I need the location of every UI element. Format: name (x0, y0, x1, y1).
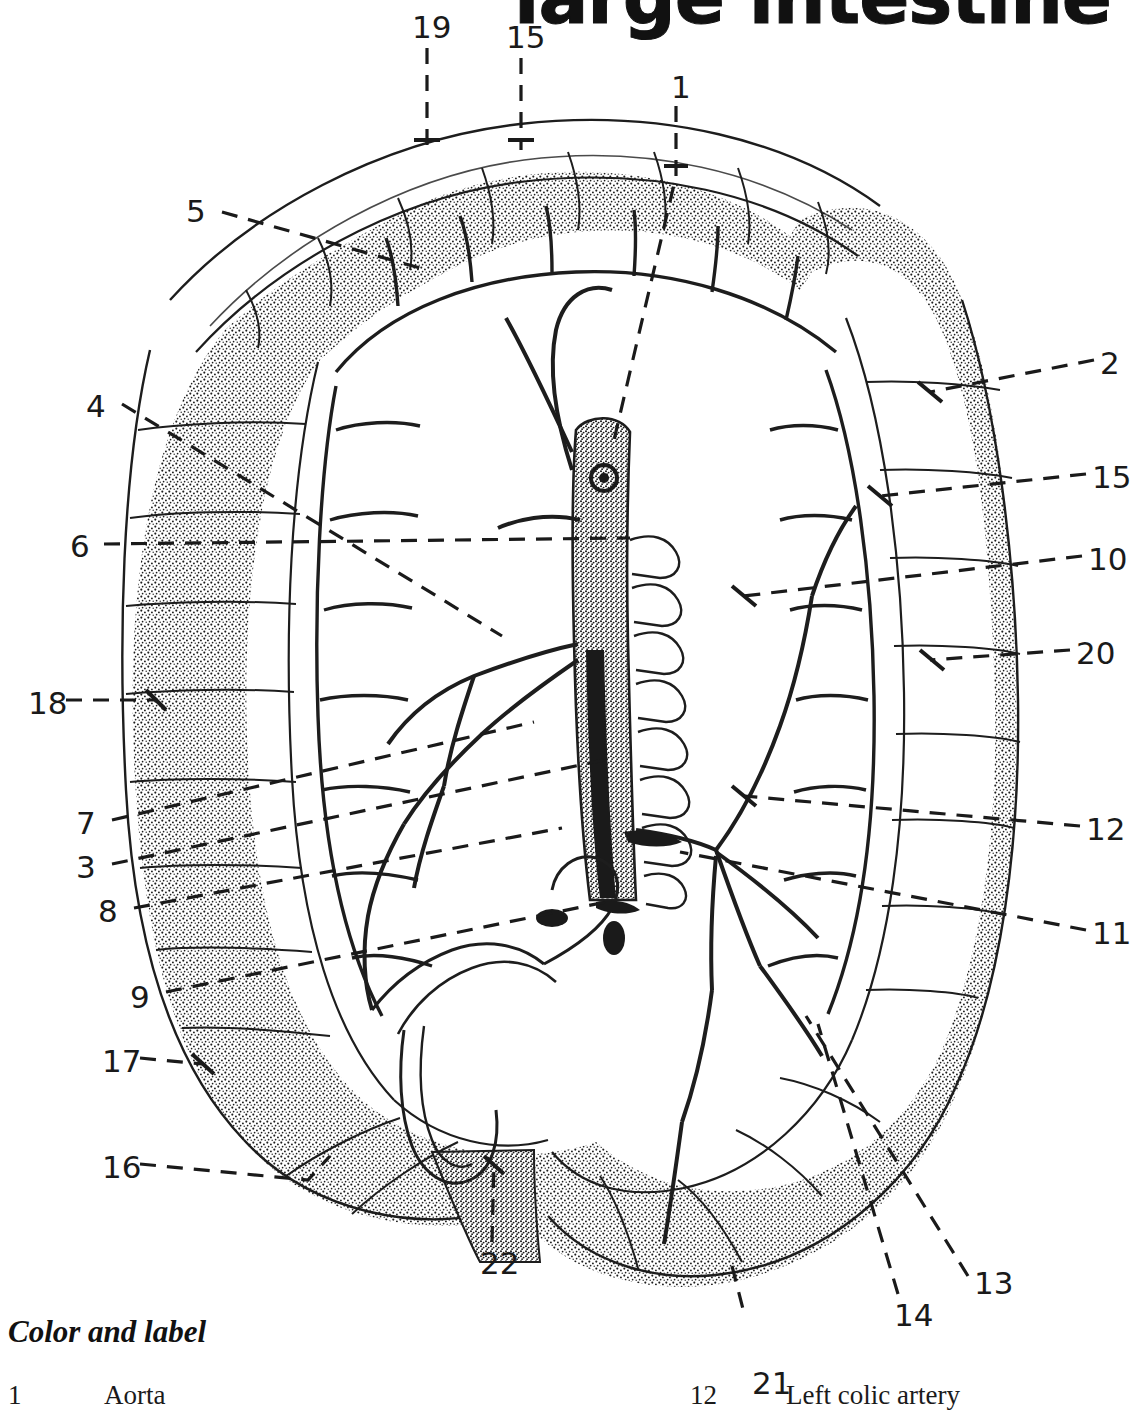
leader-label-4: 4 (86, 391, 106, 422)
legend-item-number: 1 (8, 1380, 104, 1411)
leader-label-2: 2 (1100, 348, 1120, 379)
leader-label-7: 7 (76, 808, 96, 839)
aorta (573, 418, 636, 900)
leader-label-19: 19 (412, 12, 451, 43)
legend-heading: Color and label (8, 1314, 206, 1350)
leader-22 (492, 1164, 494, 1242)
leader-label-5: 5 (186, 196, 206, 227)
leader-label-16: 16 (102, 1152, 141, 1183)
leader-label-22: 22 (480, 1248, 519, 1279)
leader-label-9: 9 (130, 982, 150, 1013)
leader-label-12: 12 (1086, 814, 1125, 845)
leader-label-3: 3 (76, 852, 96, 883)
leader-label-18: 18 (28, 688, 67, 719)
leader-label-6: 6 (70, 531, 90, 562)
legend-row: 12 Left colic artery (690, 1380, 1133, 1418)
legend-column-left: 1 Aorta (8, 1380, 568, 1418)
legend: Color and label 1 Aorta 12 Left colic ar… (0, 1300, 1133, 1427)
leader-label-13: 13 (974, 1268, 1013, 1299)
leader-label-15-top: 15 (506, 22, 545, 53)
leader-label-8: 8 (98, 896, 118, 927)
leader-label-1: 1 (671, 72, 691, 103)
large-intestine-illustration (0, 0, 1133, 1310)
legend-row: 1 Aorta (8, 1380, 568, 1418)
legend-item-label: Aorta (104, 1380, 568, 1411)
leader-label-17: 17 (102, 1046, 141, 1077)
leader-label-20: 20 (1076, 638, 1115, 669)
worksheet-page: large intestine (0, 0, 1133, 1427)
leader-label-11: 11 (1092, 918, 1131, 949)
leader-label-10: 10 (1088, 544, 1127, 575)
leader-label-15-right: 15 (1092, 462, 1131, 493)
legend-column-right: 12 Left colic artery (690, 1380, 1133, 1418)
legend-item-number: 12 (690, 1380, 786, 1411)
legend-item-label: Left colic artery (786, 1380, 1133, 1411)
